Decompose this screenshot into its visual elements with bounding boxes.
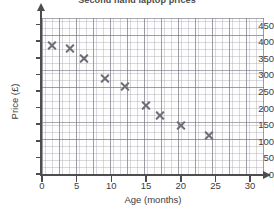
data-point — [203, 130, 214, 141]
data-point — [175, 120, 186, 131]
y-axis-arrow-icon — [37, 3, 45, 11]
data-point — [78, 53, 89, 64]
major-gridlines — [42, 18, 264, 174]
y-axis-tick — [36, 24, 42, 26]
x-axis-title: Age (months) — [42, 194, 264, 205]
y-axis-tick — [36, 107, 42, 109]
y-axis-tick-label: 200 — [240, 102, 274, 113]
x-axis-tick-label: 15 — [131, 180, 161, 191]
x-axis-tick-label: 30 — [235, 180, 265, 191]
y-axis-title: Price (£) — [9, 42, 20, 162]
scatter-chart: Second hand laptop prices 05010015020025… — [0, 0, 274, 214]
data-point — [47, 40, 58, 51]
x-axis-tick-label: 0 — [27, 180, 57, 191]
data-point — [141, 100, 152, 111]
x-axis-line — [40, 174, 266, 176]
y-axis-tick-label: 50 — [240, 152, 274, 163]
x-axis-tick-label: 25 — [200, 180, 230, 191]
y-axis-tick-label: 300 — [240, 69, 274, 80]
y-axis-tick-label: 250 — [240, 86, 274, 97]
y-axis-tick-label: 350 — [240, 52, 274, 63]
data-point — [154, 110, 165, 121]
y-axis-tick — [36, 74, 42, 76]
y-axis-tick — [36, 40, 42, 42]
data-point — [120, 81, 131, 92]
y-axis-tick — [36, 140, 42, 142]
x-axis-tick-label: 5 — [62, 180, 92, 191]
y-axis-tick-label: 150 — [240, 119, 274, 130]
data-point — [99, 73, 110, 84]
data-point — [64, 43, 75, 54]
y-axis-tick-label: 100 — [240, 135, 274, 146]
plot-area — [42, 18, 264, 174]
x-axis-tick-label: 20 — [166, 180, 196, 191]
y-axis-tick — [36, 157, 42, 159]
y-axis-line — [40, 10, 42, 176]
y-axis-tick-label: 400 — [240, 36, 274, 47]
y-axis-tick — [36, 123, 42, 125]
y-axis-tick — [36, 57, 42, 59]
y-axis-tick-label: 450 — [240, 19, 274, 30]
x-axis-tick-label: 10 — [96, 180, 126, 191]
y-axis-tick — [36, 90, 42, 92]
y-axis-tick — [36, 173, 42, 175]
y-axis-tick-label: 0 — [240, 169, 274, 180]
